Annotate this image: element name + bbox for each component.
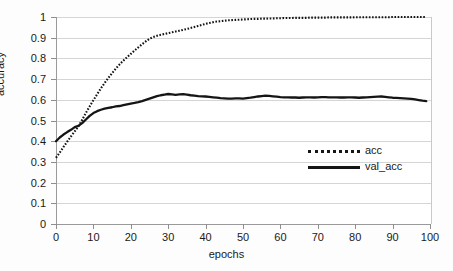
x-tick-mark	[243, 224, 244, 229]
x-tick-label: 40	[186, 231, 226, 243]
legend-label: acc	[362, 144, 382, 156]
x-tick-label: 70	[298, 231, 338, 243]
y-tick-label: 0.8	[0, 53, 46, 64]
solid-line-swatch	[306, 161, 362, 171]
x-tick-label: 60	[260, 231, 300, 243]
y-axis-title: accuracy	[0, 52, 6, 96]
gridline	[57, 224, 431, 225]
y-tick-label: 0.6	[0, 95, 46, 106]
x-tick-mark	[131, 224, 132, 229]
y-tick-label: 0	[0, 219, 46, 230]
x-tick-mark	[168, 224, 169, 229]
x-tick-mark	[280, 224, 281, 229]
x-tick-label: 30	[148, 231, 188, 243]
chart-screenshot: 00.10.20.30.40.50.60.70.80.91 accuracy 0…	[0, 0, 453, 271]
x-tick-label: 10	[73, 231, 113, 243]
x-tick-mark	[318, 224, 319, 229]
x-tick-label: 50	[223, 231, 263, 243]
x-tick-mark	[393, 224, 394, 229]
y-tick-label: 0.3	[0, 157, 46, 168]
x-axis-title: epochs	[0, 248, 453, 260]
x-tick-label: 20	[111, 231, 151, 243]
x-tick-label: 80	[335, 231, 375, 243]
x-tick-mark	[206, 224, 207, 229]
legend-item-acc: acc	[306, 142, 426, 158]
y-tick-label: 0.7	[0, 74, 46, 85]
x-tick-mark	[56, 224, 57, 229]
y-tick-label: 0.5	[0, 116, 46, 127]
x-tick-label: 100	[410, 231, 450, 243]
y-tick-label: 1	[0, 12, 46, 23]
x-tick-label: 90	[373, 231, 413, 243]
y-tick-label: 0.4	[0, 136, 46, 147]
chart-legend: accval_acc	[306, 142, 426, 174]
y-tick-label: 0.9	[0, 33, 46, 44]
series-plot	[56, 17, 430, 224]
x-tick-mark	[93, 224, 94, 229]
x-tick-label: 0	[36, 231, 76, 243]
series-line-acc	[56, 17, 426, 158]
y-tick-label: 0.2	[0, 178, 46, 189]
legend-item-val_acc: val_acc	[306, 158, 426, 174]
x-tick-mark	[430, 224, 431, 229]
dotted-line-swatch	[306, 145, 362, 155]
series-line-val-acc	[56, 94, 426, 141]
x-tick-mark	[355, 224, 356, 229]
legend-label: val_acc	[362, 160, 402, 172]
y-tick-label: 0.1	[0, 198, 46, 209]
